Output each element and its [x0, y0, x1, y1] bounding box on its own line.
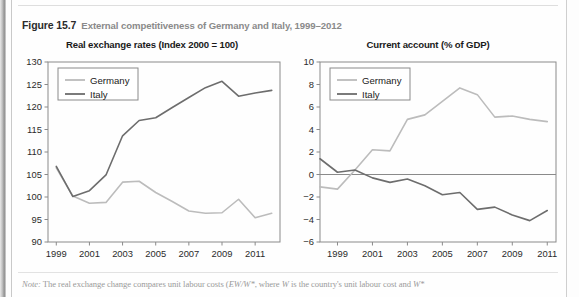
- y-axis-tick-label: 120: [26, 101, 42, 112]
- note-text-3: is the country's unit labour cost and: [289, 279, 413, 289]
- y-axis-tick-label: 125: [26, 79, 42, 90]
- figure-note: Note: The real exchange change compares …: [22, 279, 558, 289]
- figure-number: Figure 15.7: [22, 19, 76, 31]
- caption-rule-top: [18, 5, 558, 6]
- y-axis-tick-label: 90: [32, 236, 42, 247]
- y-axis-tick-label: 2: [309, 146, 314, 157]
- y-axis-tick-label: 100: [26, 191, 42, 202]
- note-rule: [18, 272, 558, 273]
- y-axis-tick-label: 95: [32, 214, 42, 225]
- legend-label-germany: Germany: [90, 75, 130, 86]
- y-axis-tick-label: 110: [27, 146, 42, 157]
- page-border-left: [11, 0, 12, 297]
- x-axis-tick-label: 2009: [212, 248, 233, 259]
- x-axis-tick-label: 2001: [362, 248, 383, 259]
- note-text-2: , where: [255, 279, 282, 289]
- note-formula-3: W*: [413, 279, 424, 289]
- figure-caption: Figure 15.7External competitiveness of G…: [22, 15, 342, 33]
- legend-label-italy: Italy: [362, 89, 380, 100]
- x-axis-tick-label: 1999: [46, 248, 67, 259]
- y-axis-tick-label: 4: [309, 124, 314, 135]
- y-axis-tick-label: −2: [303, 191, 314, 202]
- y-axis-tick-label: 130: [26, 56, 42, 67]
- page-border-right: [566, 0, 567, 297]
- x-axis-tick-label: 2005: [145, 248, 166, 259]
- data-series-germany: [56, 168, 271, 218]
- y-axis-tick-label: 8: [309, 79, 314, 90]
- chart-panel-real-exchange-rates: Real exchange rates (Index 2000 = 100) 9…: [14, 34, 290, 266]
- chart-panel-current-account: Current account (% of GDP) −6−4−20246810…: [290, 34, 566, 266]
- scanned-page: Figure 15.7External competitiveness of G…: [0, 0, 579, 297]
- figure-title: External competitiveness of Germany and …: [81, 20, 341, 31]
- line-chart-left: 9095100105110115120125130199920012003200…: [14, 56, 290, 266]
- note-formula-1: EW/W*: [229, 279, 255, 289]
- note-text-1: The real exchange change compares unit l…: [41, 279, 229, 289]
- plot-area-right: −6−4−20246810199920012003200520072009201…: [290, 56, 566, 266]
- x-axis-tick-label: 2005: [432, 248, 453, 259]
- y-axis-tick-label: 6: [309, 101, 314, 112]
- chart-title-right: Current account (% of GDP): [290, 39, 566, 50]
- x-axis-tick-label: 2007: [467, 248, 488, 259]
- charts-container: Real exchange rates (Index 2000 = 100) 9…: [14, 34, 566, 266]
- legend-label-germany: Germany: [362, 75, 402, 86]
- chart-title-left: Real exchange rates (Index 2000 = 100): [14, 39, 290, 50]
- legend-label-italy: Italy: [90, 89, 108, 100]
- plot-area-left: 9095100105110115120125130199920012003200…: [14, 56, 290, 266]
- y-axis-tick-label: 0: [309, 169, 314, 180]
- page-gutter-shadow: [0, 0, 6, 297]
- data-series-italy: [320, 159, 547, 221]
- y-axis-tick-label: 115: [27, 124, 42, 135]
- x-axis-tick-label: 2003: [112, 248, 133, 259]
- y-axis-tick-label: 10: [304, 56, 314, 67]
- x-axis-tick-label: 2007: [178, 248, 199, 259]
- x-axis-tick-label: 2011: [245, 248, 265, 259]
- y-axis-tick-label: −6: [303, 236, 314, 247]
- x-axis-tick-label: 1999: [327, 248, 348, 259]
- y-axis-tick-label: −4: [303, 214, 314, 225]
- x-axis-tick-label: 2001: [79, 248, 100, 259]
- y-axis-tick-label: 105: [26, 169, 42, 180]
- data-series-germany: [320, 88, 547, 189]
- line-chart-right: −6−4−20246810199920012003200520072009201…: [290, 56, 566, 266]
- note-formula-2: W: [282, 279, 289, 289]
- x-axis-tick-label: 2011: [537, 248, 557, 259]
- note-label: Note:: [22, 279, 41, 289]
- x-axis-tick-label: 2003: [397, 248, 418, 259]
- x-axis-tick-label: 2009: [502, 248, 523, 259]
